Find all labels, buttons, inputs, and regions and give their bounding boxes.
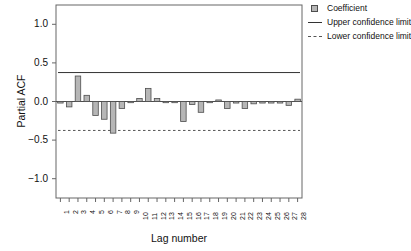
chart-legend: Coefficient Upper confidence limit Lower… — [307, 2, 406, 44]
dashed-line-icon — [307, 31, 323, 42]
legend-item-coefficient: Coefficient — [307, 2, 406, 15]
x-axis-title: Lag number — [56, 232, 302, 244]
bar-lag-18 — [207, 102, 213, 103]
bar-lag-1 — [58, 102, 64, 104]
legend-label-upper-confidence-limit: Upper confidence limit — [327, 18, 411, 27]
bar-lag-27 — [286, 102, 292, 106]
x-tick-label: 12 — [160, 212, 167, 220]
x-tick-label: 13 — [168, 212, 175, 220]
x-tick-label: 21 — [239, 212, 246, 220]
bar-lag-24 — [260, 102, 266, 104]
x-tick-label: 25 — [274, 212, 281, 220]
legend-item-upper-confidence-limit: Upper confidence limit — [307, 16, 406, 29]
x-tick-label: 19 — [221, 212, 228, 220]
bar-lag-15 — [181, 102, 187, 122]
bar-lag-25 — [269, 102, 275, 104]
bar-lag-4 — [84, 95, 90, 101]
legend-item-lower-confidence-limit: Lower confidence limit — [307, 30, 406, 43]
square-swatch-icon — [307, 3, 323, 14]
x-tick-label: 16 — [195, 212, 202, 220]
bar-lag-21 — [233, 102, 239, 104]
bar-lag-13 — [163, 102, 169, 103]
x-tick-label: 18 — [212, 212, 219, 220]
bar-lag-23 — [251, 102, 257, 104]
x-tick-label: 17 — [203, 212, 210, 220]
x-axis-tick-labels: 1234567891011121314151617181920212223242… — [0, 205, 406, 231]
x-tick-label: 24 — [265, 212, 272, 220]
x-tick-label: 15 — [186, 212, 193, 220]
bar-lag-9 — [128, 102, 133, 103]
y-tick-label: −1.0 — [14, 174, 48, 184]
bar-lag-16 — [189, 102, 195, 105]
x-tick-label: 27 — [291, 212, 298, 220]
bar-lag-10 — [137, 98, 143, 101]
bar-lag-6 — [102, 102, 108, 120]
x-tick-label: 11 — [151, 213, 158, 220]
bar-lag-28 — [295, 99, 301, 101]
x-tick-label: 3 — [80, 210, 87, 214]
bar-lag-17 — [198, 102, 204, 113]
bar-lag-12 — [154, 98, 160, 101]
bar-lag-8 — [119, 102, 125, 109]
x-tick-label: 4 — [89, 210, 96, 214]
x-tick-label: 20 — [230, 212, 237, 220]
bar-lag-14 — [172, 102, 178, 103]
x-tick-label: 6 — [107, 210, 114, 214]
solid-line-icon — [307, 17, 323, 28]
bar-lag-7 — [110, 102, 116, 134]
x-tick-label: 9 — [133, 210, 140, 214]
x-tick-label: 1 — [63, 210, 70, 214]
x-tick-label: 14 — [177, 212, 184, 220]
y-tick-label: −0.5 — [14, 135, 48, 145]
legend-label-coefficient: Coefficient — [327, 4, 367, 13]
x-tick-label: 26 — [283, 212, 290, 220]
x-tick-label: 22 — [247, 212, 254, 220]
legend-label-lower-confidence-limit: Lower confidence limit — [327, 32, 411, 41]
bar-lag-5 — [93, 102, 99, 116]
bar-lag-2 — [66, 102, 72, 107]
bar-lag-22 — [242, 102, 248, 109]
y-tick-label: 1.0 — [14, 19, 48, 29]
x-tick-label: 8 — [124, 210, 131, 214]
bar-lag-19 — [216, 100, 222, 102]
x-tick-label: 7 — [116, 210, 123, 214]
x-tick-label: 10 — [142, 212, 149, 220]
y-tick-label: 0.5 — [14, 58, 48, 68]
bar-lag-3 — [75, 76, 81, 101]
x-tick-label: 2 — [72, 210, 79, 214]
bar-lag-26 — [277, 102, 283, 104]
bar-lag-20 — [225, 102, 231, 109]
y-tick-label: 0.0 — [14, 97, 48, 107]
x-tick-label: 5 — [98, 210, 105, 214]
x-tick-label: 23 — [256, 212, 263, 220]
bar-lag-11 — [146, 88, 152, 101]
x-tick-label: 28 — [300, 212, 307, 220]
